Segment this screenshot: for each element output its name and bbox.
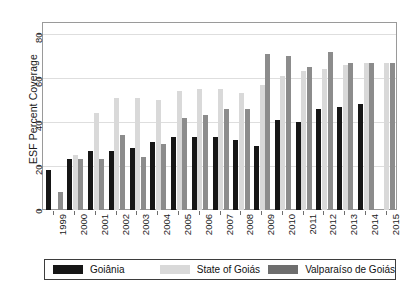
bar-group — [337, 23, 353, 210]
bar-group — [379, 23, 395, 210]
bar — [130, 148, 135, 210]
legend-label: State of Goiás — [197, 264, 260, 275]
x-tick-mark — [53, 211, 54, 215]
black-swatch — [53, 265, 83, 274]
x-tick-mark — [240, 211, 241, 215]
y-tick-label: 80 — [33, 33, 44, 51]
y-tick-mark — [37, 122, 42, 123]
bar — [316, 109, 321, 210]
y-tick-mark — [37, 34, 42, 35]
bar-group — [275, 23, 291, 210]
bar — [233, 140, 238, 210]
x-tick-mark — [303, 211, 304, 215]
bar — [218, 89, 223, 210]
bar — [192, 137, 197, 210]
x-tick-mark — [199, 211, 200, 215]
y-tick-mark — [37, 166, 42, 167]
x-tick-mark — [136, 211, 137, 215]
bar — [58, 192, 63, 210]
x-tick-label: 2014 — [369, 214, 380, 248]
bar — [390, 63, 395, 210]
bar — [296, 122, 301, 210]
bar — [213, 137, 218, 210]
bar-group — [296, 23, 312, 210]
bar-group — [254, 23, 270, 210]
light-gray-swatch — [160, 265, 190, 274]
x-tick-mark — [282, 211, 283, 215]
y-tick-label: 20 — [33, 165, 44, 183]
bar — [182, 118, 187, 210]
x-tick-mark — [386, 211, 387, 215]
bars-layer — [43, 23, 396, 210]
bar-group — [213, 23, 229, 210]
bar — [301, 71, 306, 210]
x-tick-label: 2000 — [78, 214, 89, 248]
bar — [337, 107, 342, 210]
x-tick-label: 2005 — [182, 214, 193, 248]
bar — [358, 104, 363, 210]
x-tick-mark — [365, 211, 366, 215]
y-tick-label: 60 — [33, 77, 44, 95]
bar — [275, 120, 280, 210]
bar — [135, 98, 140, 210]
bar — [348, 63, 353, 210]
bar — [286, 56, 291, 210]
bar-group — [130, 23, 146, 210]
bar — [364, 63, 369, 210]
bar — [177, 91, 182, 210]
legend-item: Valparaíso de Goiás — [260, 264, 395, 275]
x-tick-mark — [344, 211, 345, 215]
x-tick-label: 2012 — [327, 214, 338, 248]
bar — [171, 137, 176, 210]
bar-group — [192, 23, 208, 210]
x-tick-mark — [261, 211, 262, 215]
bar-group — [150, 23, 166, 210]
bar-group — [67, 23, 83, 210]
bar — [265, 54, 270, 210]
x-tick-label: 2002 — [120, 214, 131, 248]
bar — [99, 159, 104, 210]
legend-label: Valparaíso de Goiás — [305, 264, 395, 275]
bar — [67, 159, 72, 210]
y-tick-label: 0 — [33, 209, 44, 227]
bar — [254, 146, 259, 210]
x-tick-label: 2011 — [307, 214, 318, 248]
esf-coverage-bar-chart: ESF Percent Coverage 020406080 199920002… — [0, 0, 406, 288]
bar — [224, 109, 229, 210]
bar-group — [316, 23, 332, 210]
bar — [114, 98, 119, 210]
bar-group — [109, 23, 125, 210]
x-tick-label: 2010 — [286, 214, 297, 248]
x-tick-label: 1999 — [57, 214, 68, 248]
bar-group — [88, 23, 104, 210]
x-tick-mark — [116, 211, 117, 215]
bar — [94, 113, 99, 210]
bar — [307, 67, 312, 210]
bar — [197, 89, 202, 210]
x-tick-label: 2003 — [140, 214, 151, 248]
bar — [46, 170, 51, 210]
x-tick-mark — [95, 211, 96, 215]
bar-group — [358, 23, 374, 210]
bar — [156, 100, 161, 210]
legend-item: Goiânia — [45, 264, 152, 275]
bar — [88, 151, 93, 210]
chart-legend: GoiâniaState of GoiásValparaíso de Goiás — [44, 259, 396, 280]
x-tick-mark — [178, 211, 179, 215]
bar — [328, 52, 333, 210]
bar-group — [233, 23, 249, 210]
x-tick-label: 2008 — [244, 214, 255, 248]
x-tick-mark — [220, 211, 221, 215]
bar-group — [171, 23, 187, 210]
x-tick-label: 2015 — [390, 214, 401, 248]
x-tick-mark — [323, 211, 324, 215]
bar — [343, 65, 348, 210]
x-tick-label: 2009 — [265, 214, 276, 248]
bar — [73, 155, 78, 210]
bar — [322, 69, 327, 210]
x-tick-label: 2007 — [224, 214, 235, 248]
y-tick-mark — [37, 210, 42, 211]
x-tick-label: 2013 — [348, 214, 359, 248]
bar — [239, 93, 244, 210]
bar — [150, 142, 155, 210]
